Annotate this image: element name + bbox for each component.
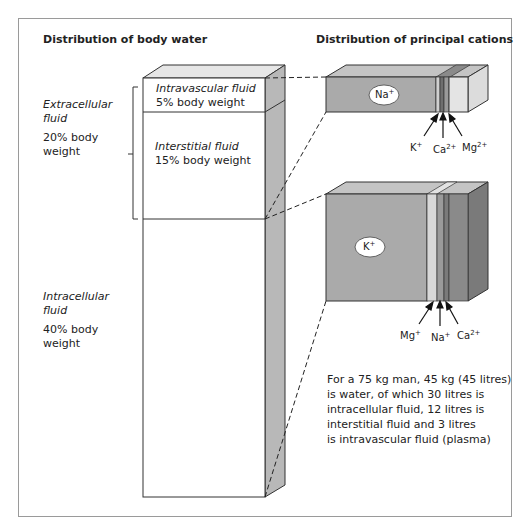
interstitial-percent: 15% body weight [155, 154, 251, 168]
note-line: intracellular fluid, 12 litres is [327, 402, 511, 417]
cations-heading: Distribution of principal cations [316, 33, 513, 47]
note-line: For a 75 kg man, 45 kg (45 litres) [327, 372, 511, 387]
ion-na-minor-intra: Na+ [431, 331, 450, 345]
ion-mg-minor: Mg2+ [462, 141, 487, 155]
intracellular-percent: 40% body [43, 323, 98, 337]
interstitial-label: Interstitial fluid [155, 140, 239, 154]
extracellular-label-2: fluid [43, 112, 67, 126]
extracellular-label: Extracellular [43, 98, 112, 112]
ion-na-main: Na+ [375, 88, 394, 102]
ion-k-main: K+ [363, 240, 375, 254]
note-line: interstitial fluid and 3 litres [327, 417, 511, 432]
body-water-heading: Distribution of body water [43, 33, 207, 47]
note-line: is water, of which 30 litres is [327, 387, 511, 402]
body-water-column [143, 65, 285, 497]
intravascular-label: Intravascular fluid [156, 82, 256, 96]
extracellular-percent-2: weight [43, 145, 80, 159]
intracellular-label-2: fluid [43, 304, 67, 318]
ion-ca-minor-intra: Ca2+ [457, 329, 480, 343]
extracellular-minor-arrows [424, 113, 462, 138]
intracellular-label: Intracellular [43, 290, 109, 304]
note-paragraph: For a 75 kg man, 45 kg (45 litres) is wa… [327, 372, 511, 447]
intracellular-cation-bar [326, 182, 488, 301]
extracellular-cation-bar [326, 65, 488, 112]
intravascular-percent: 5% body weight [156, 96, 245, 110]
diagram-graphics [0, 0, 528, 532]
intracellular-minor-arrows [419, 301, 458, 326]
extracellular-bracket [128, 87, 138, 219]
extracellular-percent: 20% body [43, 131, 98, 145]
intracellular-percent-2: weight [43, 337, 80, 351]
ion-mg-minor-intra: Mg+ [400, 329, 421, 343]
note-line: is intravascular fluid (plasma) [327, 432, 511, 447]
ion-ca-minor: Ca2+ [433, 143, 456, 157]
ion-k-minor: K+ [410, 141, 422, 155]
